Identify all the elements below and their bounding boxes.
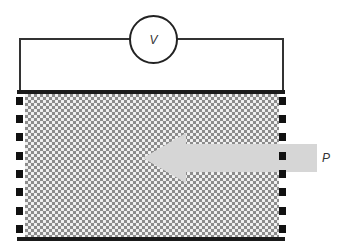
- right-electrode: [279, 188, 286, 196]
- right-electrode: [279, 207, 286, 215]
- right-electrode: [279, 133, 286, 141]
- right-electrode: [279, 97, 286, 105]
- arrow-left-icon: [0, 0, 343, 249]
- right-electrode: [279, 170, 286, 178]
- right-electrode: [279, 152, 286, 160]
- pressure-label: P: [322, 151, 330, 165]
- right-electrode: [279, 115, 286, 123]
- right-electrode: [279, 225, 286, 233]
